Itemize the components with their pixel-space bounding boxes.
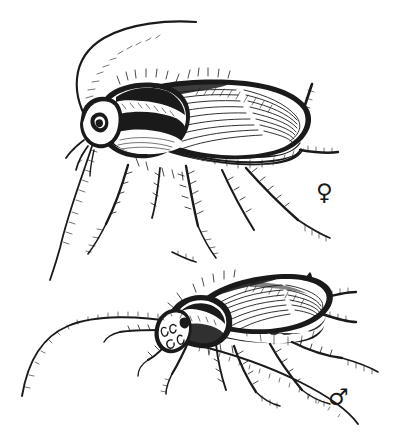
illustration-plate: ♀ ♂	[0, 0, 400, 435]
mars-symbol: ♂	[328, 386, 349, 409]
plate-background	[0, 0, 400, 435]
cockroach-illustration	[0, 0, 400, 435]
venus-symbol: ♀	[316, 181, 333, 204]
